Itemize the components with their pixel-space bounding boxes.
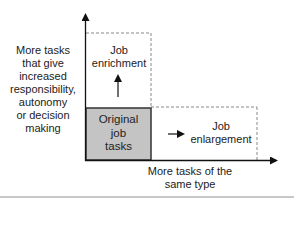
enrichment-label-line: enrichment (88, 57, 150, 70)
original-label-line: tasks (86, 140, 151, 154)
y-label-line: autonomy (2, 96, 84, 109)
x-label-line: same type (130, 178, 250, 191)
x-label-line: More tasks of the (130, 165, 250, 178)
original-label-line: Original (86, 113, 151, 127)
bottom-divider (0, 196, 294, 198)
y-axis-label: More tasks that give increased responsib… (2, 44, 84, 135)
y-label-line: increased (2, 70, 84, 83)
enlargement-label-line: Job (186, 120, 256, 133)
y-label-line: More tasks (2, 44, 84, 57)
y-label-line: that give (2, 57, 84, 70)
y-label-line: making (2, 122, 84, 135)
y-label-line: or decision (2, 109, 84, 122)
y-label-line: responsibility, (2, 83, 84, 96)
original-job-label: Original job tasks (86, 113, 151, 154)
enrichment-label-line: Job (88, 44, 150, 57)
enlargement-label-line: enlargement (186, 133, 256, 146)
enlargement-label: Job enlargement (186, 120, 256, 146)
x-axis-label: More tasks of the same type (130, 165, 250, 191)
enrichment-label: Job enrichment (88, 44, 150, 70)
original-label-line: job (86, 127, 151, 141)
